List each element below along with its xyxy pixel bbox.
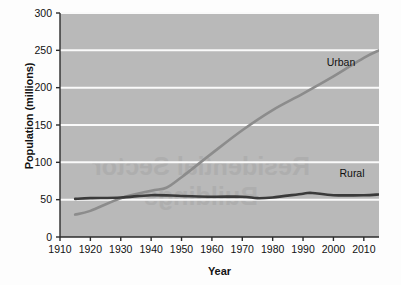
line-chart-plot: Residential Sector Buildings 05010015020… (0, 0, 401, 285)
x-axis-ticks: 1910192019301940195019601970198019902000… (48, 237, 375, 255)
x-axis-tick-label: 1920 (79, 243, 103, 255)
x-axis-tick-label: 1970 (231, 243, 255, 255)
chart-container: Population (millions) Year Residential S… (0, 0, 401, 285)
x-axis-tick-label: 2000 (322, 243, 346, 255)
y-axis-tick-label: 50 (40, 193, 52, 205)
y-axis-ticks: 050100150200250300 (34, 7, 60, 243)
y-axis-tick-label: 150 (34, 119, 52, 131)
y-axis-tick-label: 200 (34, 81, 52, 93)
x-axis-tick-label: 1910 (48, 243, 72, 255)
y-axis-tick-label: 250 (34, 44, 52, 56)
watermark-line-1: Residential Sector (92, 152, 310, 180)
x-axis-tick-label: 1950 (170, 243, 194, 255)
x-axis-tick-label: 1960 (200, 243, 224, 255)
y-axis-tick-label: 100 (34, 156, 52, 168)
x-axis-tick-label: 1990 (291, 243, 315, 255)
x-axis-tick-label: 1940 (139, 243, 163, 255)
y-axis-tick-label: 0 (46, 231, 52, 243)
x-axis-tick-label: 1930 (109, 243, 133, 255)
y-axis-tick-label: 300 (34, 7, 52, 19)
x-axis-tick-label: 1980 (261, 243, 285, 255)
series-label-rural: Rural (339, 167, 364, 179)
series-label-urban: Urban (327, 56, 356, 68)
x-axis-tick-label: 2010 (352, 243, 376, 255)
